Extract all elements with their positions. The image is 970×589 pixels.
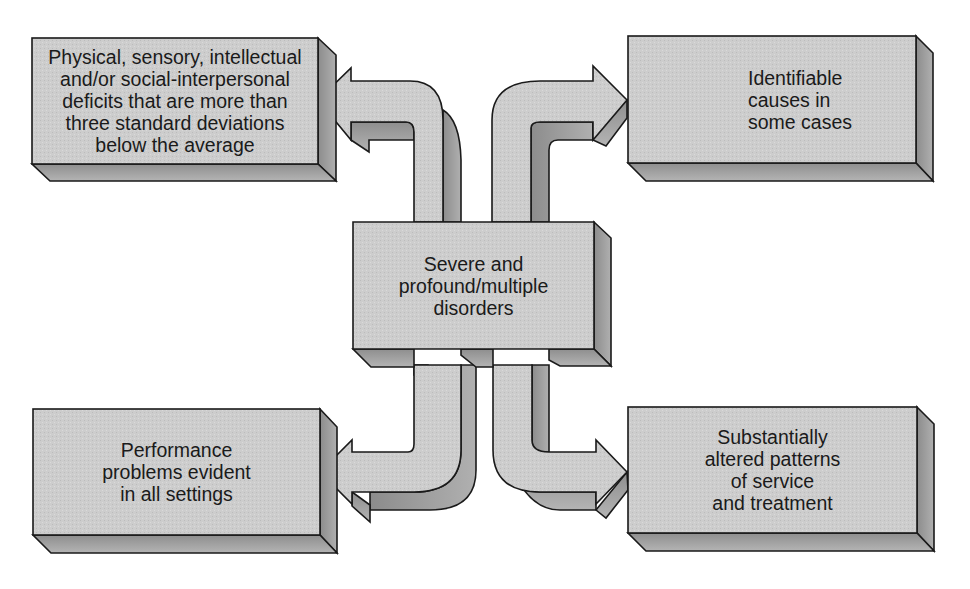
center-box-label: Severe and profound/multiple disorders <box>353 222 594 349</box>
arrow-to-top-left <box>318 68 461 222</box>
box-top-right-label: Identifiable causes in some cases <box>628 36 916 163</box>
box-top-left-label: Physical, sensory, intellectual and/or s… <box>32 38 318 164</box>
box-bottom-left-label: Performance problems evident in all sett… <box>33 409 320 535</box>
arrow-to-top-right <box>492 66 627 222</box>
arrow-to-bottom-right <box>493 365 628 518</box>
arrow-to-bottom-left <box>320 365 476 522</box>
box-bottom-right-label: Substantially altered patterns of servic… <box>628 407 917 533</box>
